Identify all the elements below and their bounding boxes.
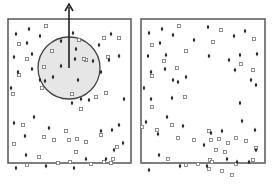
square-marker [94,95,97,98]
square-marker [214,148,217,151]
square-marker [217,137,220,140]
square-marker [230,173,233,176]
square-marker [12,142,15,145]
scatter-comparison-diagram [0,0,275,186]
square-marker [75,137,78,140]
square-marker [251,158,254,161]
square-marker [207,129,210,132]
square-marker [184,49,187,52]
square-marker [42,135,45,138]
square-marker [25,57,28,60]
square-marker [209,138,212,141]
square-marker [183,95,186,98]
square-marker [196,162,199,165]
square-marker [211,40,214,43]
square-marker [150,105,153,108]
square-marker [50,49,53,52]
square-marker [82,57,85,60]
square-marker [79,107,82,110]
square-marker [56,161,59,164]
square-marker [42,65,45,68]
square-marker [102,36,105,39]
square-marker [192,138,195,141]
square-marker [223,150,226,153]
square-marker [140,125,143,128]
square-marker [64,129,67,132]
square-marker [177,24,180,27]
square-marker [162,59,165,62]
square-marker [220,169,223,172]
square-marker [170,123,173,126]
diamond-marker [45,163,48,168]
diagram-figure [0,0,275,186]
square-marker [150,74,153,77]
square-marker [210,160,213,163]
square-marker [21,123,24,126]
square-marker [234,136,237,139]
square-marker [117,36,120,39]
square-marker [166,157,169,160]
diamond-marker [73,165,76,170]
square-marker [44,24,47,27]
square-marker [104,91,107,94]
square-marker [70,92,73,95]
square-marker [176,136,179,139]
square-marker [175,66,178,69]
square-marker [99,133,102,136]
square-marker [89,162,92,165]
square-marker [52,138,55,141]
diamond-marker [179,163,182,168]
square-marker [219,28,222,31]
square-marker [109,161,112,164]
square-marker [184,163,187,166]
square-marker [252,37,255,40]
left-panel [8,4,131,171]
square-marker [150,43,153,46]
square-marker [11,92,14,95]
square-marker [155,128,158,131]
square-marker [239,62,242,65]
square-marker [115,145,118,148]
square-marker [25,163,28,166]
square-marker [77,38,80,41]
diamond-marker [148,167,151,172]
square-marker [102,160,105,163]
square-marker [67,138,70,141]
square-marker [226,141,229,144]
square-marker [74,150,77,153]
square-marker [40,86,43,89]
square-marker [207,167,210,170]
right-panel [140,19,265,177]
square-marker [68,160,71,163]
diamond-marker [15,165,18,170]
square-marker [37,155,40,158]
square-marker [251,68,254,71]
square-marker [111,157,114,160]
square-marker [244,139,247,142]
square-marker [17,42,20,45]
square-marker [84,140,87,143]
